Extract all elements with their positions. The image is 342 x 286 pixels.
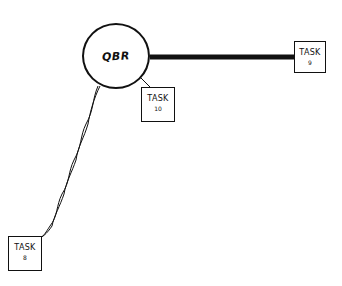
task-9-node[interactable]: TASK 9 xyxy=(294,41,326,73)
task-10-node[interactable]: TASK 10 xyxy=(141,87,175,122)
task-9-number: 9 xyxy=(308,59,312,67)
qbr-node[interactable]: QBR xyxy=(82,23,150,89)
task-8-label: TASK xyxy=(14,243,35,252)
qbr-label: QBR xyxy=(102,49,130,63)
edges-layer xyxy=(0,0,342,286)
task-10-label: TASK xyxy=(147,94,168,103)
task-8-node[interactable]: TASK 8 xyxy=(8,236,42,271)
task-10-number: 10 xyxy=(154,105,162,113)
edge-qbr-task8 xyxy=(40,86,100,238)
task-8-number: 8 xyxy=(23,254,27,262)
task-9-label: TASK xyxy=(299,48,320,57)
